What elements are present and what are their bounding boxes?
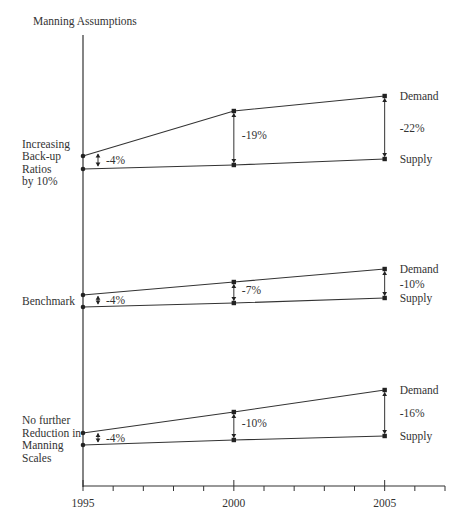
gap-arrow <box>231 414 236 438</box>
arrow-down-icon <box>96 301 101 305</box>
x-tick-label: 2000 <box>222 497 245 509</box>
scenario-label: Back-up <box>22 150 61 163</box>
demand-label: Demand <box>400 263 439 275</box>
supply-marker <box>232 163 236 167</box>
gap-label: -19% <box>242 129 267 141</box>
gap-arrow <box>382 271 387 296</box>
gap-label: -4% <box>106 432 126 444</box>
supply-marker <box>382 296 386 300</box>
arrow-up-icon <box>382 98 387 102</box>
gap-chart: Manning Assumptions 199520002005 -4%-19%… <box>0 0 468 531</box>
demand-marker <box>382 388 386 392</box>
arrow-down-icon <box>96 439 101 443</box>
demand-marker <box>382 267 386 271</box>
arrow-up-icon <box>231 113 236 117</box>
gap-arrow <box>96 154 101 167</box>
arrow-up-icon <box>231 284 236 288</box>
scenario-label: by 10% <box>22 175 58 188</box>
gap-label: -4% <box>106 294 126 306</box>
supply-marker <box>81 167 86 172</box>
x-tick-label: 1995 <box>72 497 95 509</box>
gap-label: -10% <box>242 417 267 429</box>
supply-marker <box>382 434 386 438</box>
x-tick-label: 2005 <box>373 497 396 509</box>
demand-marker <box>232 109 236 113</box>
arrow-up-icon <box>382 392 387 396</box>
supply-marker <box>232 301 236 305</box>
gap-arrow <box>231 284 236 301</box>
arrow-down-icon <box>231 159 236 163</box>
gap-arrow <box>96 433 101 443</box>
arrow-down-icon <box>382 292 387 296</box>
arrow-down-icon <box>231 434 236 438</box>
supply-marker <box>382 157 386 161</box>
supply-marker <box>81 305 86 310</box>
arrow-up-icon <box>382 271 387 275</box>
gap-label: -22% <box>400 122 425 134</box>
demand-marker <box>382 94 386 98</box>
scenario-label: Benchmark <box>22 295 75 307</box>
demand-label: Demand <box>400 90 439 102</box>
gap-arrow <box>382 392 387 434</box>
demand-marker <box>81 293 86 298</box>
arrow-up-icon <box>96 154 101 158</box>
gap-label: -10% <box>400 278 425 290</box>
x-axis-tick-labels: 199520002005 <box>72 497 397 509</box>
gap-arrow <box>96 296 101 305</box>
scenario-1: -4%-19%-22%DemandSupplyIncreasingBack-up… <box>22 90 439 188</box>
demand-marker <box>81 154 86 159</box>
supply-label: Supply <box>400 430 433 443</box>
gap-label: -16% <box>400 407 425 419</box>
gap-arrow <box>382 98 387 157</box>
arrow-up-icon <box>231 414 236 418</box>
scenario-label: Increasing <box>22 138 70 151</box>
scenario-label: Scales <box>22 452 52 464</box>
gap-arrow <box>231 113 236 163</box>
chart-title: Manning Assumptions <box>33 15 137 28</box>
supply-label: Supply <box>400 153 433 166</box>
gap-label: -4% <box>106 154 126 166</box>
arrow-down-icon <box>382 153 387 157</box>
demand-marker <box>232 410 236 414</box>
arrow-down-icon <box>231 297 236 301</box>
scenario-label: No further <box>22 414 70 426</box>
demand-label: Demand <box>400 384 439 396</box>
scenario-groups: -4%-19%-22%DemandSupplyIncreasingBack-up… <box>22 90 439 464</box>
demand-marker <box>232 280 236 284</box>
gap-label: -7% <box>242 284 262 296</box>
supply-marker <box>232 438 236 442</box>
arrow-down-icon <box>96 163 101 167</box>
supply-marker <box>81 443 86 448</box>
scenario-label: Ratios <box>22 163 52 175</box>
scenario-label: Reduction in <box>22 427 81 439</box>
arrow-up-icon <box>96 433 101 437</box>
scenario-3: -4%-10%-16%DemandSupplyNo furtherReducti… <box>22 384 439 464</box>
demand-marker <box>81 431 86 436</box>
scenario-2: -4%-7%-10%DemandSupplyBenchmark <box>22 263 439 309</box>
supply-label: Supply <box>400 292 433 305</box>
scenario-label: Manning <box>22 439 64 452</box>
arrow-down-icon <box>382 430 387 434</box>
arrow-up-icon <box>96 296 101 300</box>
